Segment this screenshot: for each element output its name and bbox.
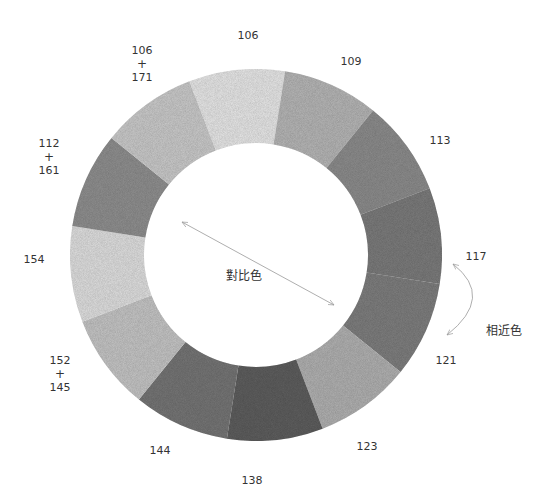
segment-label: 106+171 — [132, 43, 153, 85]
segment-label: 121 — [436, 353, 457, 368]
segment-label: 152+145 — [50, 353, 71, 395]
pencil-number: 109 — [341, 54, 362, 69]
pencil-number: 154 — [24, 252, 45, 267]
color-wheel — [0, 0, 542, 504]
segment-label: 109 — [341, 54, 362, 69]
pencil-number: 161 — [39, 163, 60, 178]
pencil-number: 145 — [50, 380, 71, 395]
pencil-number: 138 — [242, 473, 263, 488]
segment-label: 144 — [150, 443, 171, 458]
complementary-label: 對比色 — [226, 266, 262, 283]
analogous-label: 相近色 — [486, 321, 522, 338]
segment-label: 123 — [357, 439, 378, 454]
pencil-number: 112 — [39, 136, 60, 151]
pencil-number: 171 — [132, 70, 153, 85]
pencil-number: 123 — [357, 439, 378, 454]
pencil-number: 117 — [466, 249, 487, 264]
complementary-arrow — [182, 222, 334, 305]
pencil-number: 106 — [238, 28, 259, 43]
analogous-arrow — [447, 264, 473, 335]
segment-label: 154 — [24, 252, 45, 267]
segment-label: 112+161 — [39, 136, 60, 178]
segment-label: 117 — [466, 249, 487, 264]
segment-label: 138 — [242, 473, 263, 488]
wheel-segments — [70, 69, 442, 441]
pencil-number: 121 — [436, 353, 457, 368]
plus-sign: + — [39, 151, 60, 163]
pencil-number: 106 — [132, 43, 153, 58]
segment-label: 106 — [238, 28, 259, 43]
segment-label: 113 — [430, 133, 451, 148]
plus-sign: + — [132, 58, 153, 70]
pencil-number: 113 — [430, 133, 451, 148]
pencil-number: 144 — [150, 443, 171, 458]
plus-sign: + — [50, 368, 71, 380]
pencil-number: 152 — [50, 353, 71, 368]
